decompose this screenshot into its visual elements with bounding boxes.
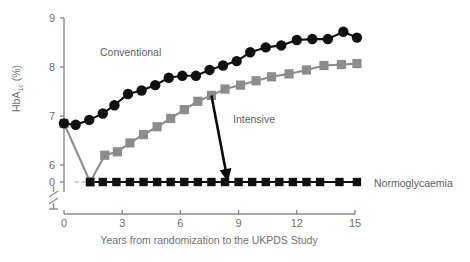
data-point xyxy=(139,178,147,186)
data-point xyxy=(180,178,188,186)
x-tick-label-9: 9 xyxy=(236,217,242,229)
y-axis-title: HbA1c (%) xyxy=(10,65,24,112)
data-point xyxy=(319,61,328,70)
data-point xyxy=(316,178,324,186)
data-point xyxy=(180,105,189,114)
data-point xyxy=(86,178,94,186)
data-point xyxy=(307,34,317,44)
data-point xyxy=(84,115,94,125)
data-point xyxy=(335,178,343,186)
chart-figure: 98760 03691215 Conventional Inte xyxy=(0,0,470,262)
y-tick-label-8: 8 xyxy=(49,61,55,73)
data-point xyxy=(220,84,229,93)
x-tick-label-12: 12 xyxy=(291,217,303,229)
y-axis-title-main: HbA xyxy=(10,92,22,112)
x-tick-label-15: 15 xyxy=(349,217,361,229)
data-point xyxy=(207,178,215,186)
data-point xyxy=(177,71,187,81)
data-point xyxy=(234,178,242,186)
y-tick-label-7: 7 xyxy=(49,110,55,122)
data-point xyxy=(262,178,270,186)
data-point xyxy=(125,138,134,147)
data-point xyxy=(267,72,276,81)
data-point xyxy=(136,85,146,95)
intensive-series-line xyxy=(64,64,357,182)
data-point xyxy=(236,81,245,90)
data-point xyxy=(99,178,107,186)
intensive-series-label: Intensive xyxy=(233,113,275,125)
data-point xyxy=(251,76,260,85)
y-axis-break-icon xyxy=(49,186,58,209)
data-point xyxy=(289,178,297,186)
data-point xyxy=(112,178,120,186)
x-tick-label-3: 3 xyxy=(119,217,125,229)
data-point xyxy=(204,65,214,75)
data-point xyxy=(139,130,148,139)
data-point xyxy=(100,151,109,160)
data-point xyxy=(231,56,241,66)
y-axis-tick-labels: 98760 xyxy=(49,12,55,188)
data-point xyxy=(193,97,202,106)
intensive-arrow-annotation xyxy=(211,95,231,182)
data-point xyxy=(59,118,69,128)
y-tick-label-9: 9 xyxy=(49,12,55,24)
data-point xyxy=(191,71,201,81)
data-point xyxy=(352,32,362,42)
x-tick-label-0: 0 xyxy=(61,217,67,229)
normoglycaemia-series-markers xyxy=(86,178,361,186)
data-point xyxy=(150,80,160,90)
svg-text:HbA1c (%): HbA1c (%) xyxy=(10,65,24,112)
data-point xyxy=(126,178,134,186)
intensive-series-markers xyxy=(59,59,361,187)
data-point xyxy=(302,178,310,186)
data-point xyxy=(166,114,175,123)
data-point xyxy=(153,122,162,131)
data-point xyxy=(123,89,133,99)
data-point xyxy=(284,69,293,78)
data-point xyxy=(275,178,283,186)
data-point xyxy=(302,65,311,74)
y-tick-label-6: 6 xyxy=(49,159,55,171)
data-point xyxy=(109,100,119,110)
data-point xyxy=(194,178,202,186)
data-point xyxy=(353,178,361,186)
data-point xyxy=(113,147,122,156)
x-tick-label-6: 6 xyxy=(177,217,183,229)
y-axis-title-units: (%) xyxy=(10,65,22,84)
data-point xyxy=(276,40,286,50)
data-point xyxy=(153,178,161,186)
hba1c-line-chart: 98760 03691215 Conventional Inte xyxy=(0,0,470,262)
data-point xyxy=(98,108,108,118)
data-point xyxy=(323,34,333,44)
data-point xyxy=(245,47,255,57)
x-axis-title: Years from randomization to the UKPDS St… xyxy=(100,234,318,246)
x-axis-tick-labels: 03691215 xyxy=(61,217,361,229)
data-point xyxy=(352,59,361,68)
data-point xyxy=(292,35,302,45)
data-point xyxy=(164,73,174,83)
conventional-series-label: Conventional xyxy=(100,46,161,58)
data-point xyxy=(248,178,256,186)
data-point xyxy=(167,178,175,186)
conventional-series-markers xyxy=(59,27,362,131)
data-point xyxy=(261,42,271,52)
data-point xyxy=(218,60,228,70)
data-point xyxy=(70,120,80,130)
normoglycaemia-series-label: Normoglycaemia xyxy=(374,177,453,189)
data-point xyxy=(338,27,348,37)
data-point xyxy=(337,60,346,69)
